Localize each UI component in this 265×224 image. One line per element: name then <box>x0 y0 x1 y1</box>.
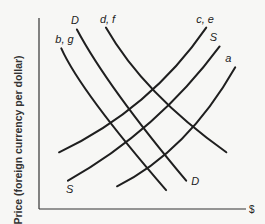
curve-label: a <box>225 52 231 64</box>
supply-curve-4 <box>68 46 220 180</box>
curve-label: c, e <box>196 13 214 25</box>
curve-label: d, f <box>100 13 116 25</box>
curve-label: b, g <box>55 33 74 45</box>
curve-label: D <box>71 14 79 26</box>
curve-end-label: S <box>66 183 74 195</box>
demand-curve-0 <box>61 48 166 190</box>
x-axis-label: $ <box>249 204 255 215</box>
y-axis-label: Price (foreign currency per dollar) <box>12 55 24 224</box>
demand-curve-2 <box>106 28 226 153</box>
chart: Price (foreign currency per dollar) $ b,… <box>0 0 265 224</box>
curve-end-label: D <box>191 175 199 187</box>
curve-label: S <box>210 31 218 43</box>
